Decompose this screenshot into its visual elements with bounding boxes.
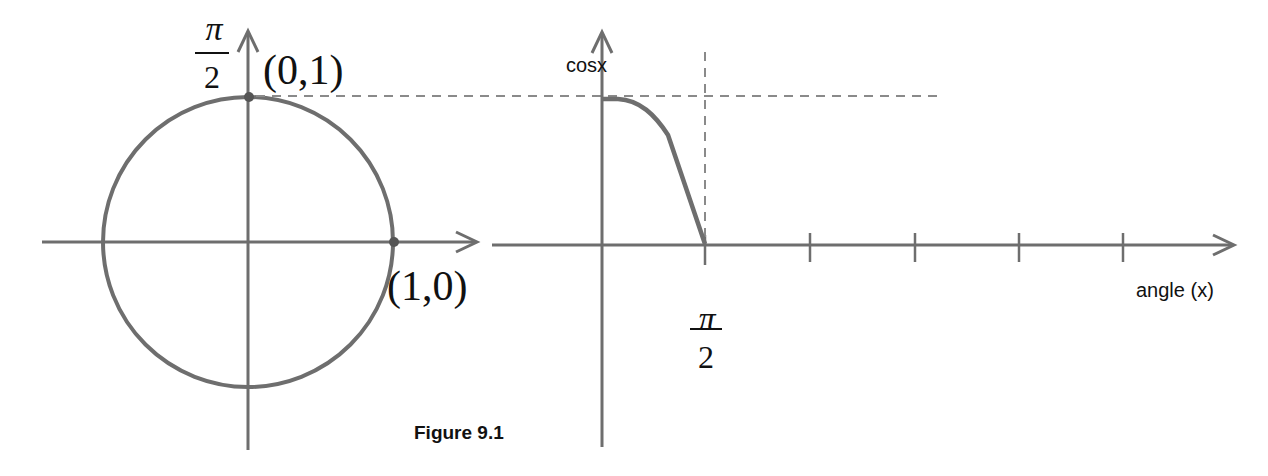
cos-x-axis-label: angle (x) xyxy=(1136,279,1214,301)
point-1-0-label: (1,0) xyxy=(387,263,467,310)
x-axis-ticks xyxy=(705,233,1123,265)
circle-pi-numerator: π xyxy=(205,10,223,47)
circle-pi-denominator: 2 xyxy=(204,59,220,95)
cos-graph: cosx angle (x) π 2 xyxy=(492,32,1234,447)
tick-pi-numerator: π xyxy=(698,300,716,337)
figure-caption: Figure 9.1 xyxy=(414,422,504,443)
cos-y-axis-label: cosx xyxy=(566,54,607,76)
unit-circle-diagram: π 2 (0,1) (1,0) xyxy=(42,10,477,450)
point-0-1-label: (0,1) xyxy=(263,47,343,94)
tick-pi-denominator: 2 xyxy=(698,339,714,375)
figure-canvas: π 2 (0,1) (1,0) cosx angle (x) π 2 F xyxy=(0,0,1268,476)
cos-curve xyxy=(603,99,705,244)
point-1-0 xyxy=(389,237,399,247)
point-0-1 xyxy=(244,92,254,102)
